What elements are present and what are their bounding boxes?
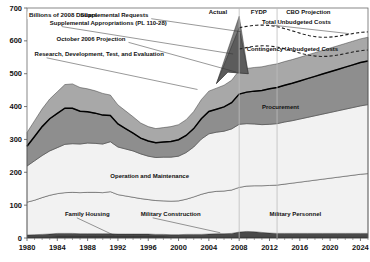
annotation-contingency-unbudgeted-costs: Contingency Unbudgeted Costs xyxy=(247,46,339,52)
y-tick-label-500: 500 xyxy=(9,69,22,78)
y-tick-label-300: 300 xyxy=(9,135,22,144)
y-tick-label-200: 200 xyxy=(9,168,22,177)
x-tick-label-2008: 2008 xyxy=(231,243,248,252)
x-tick-label-2024: 2024 xyxy=(352,243,370,252)
x-tick-label-2004: 2004 xyxy=(201,243,219,252)
period-label-cbo: CBO Projection xyxy=(286,9,331,15)
annotation-military-personnel: Military Personnel xyxy=(269,211,321,217)
x-tick-label-2012: 2012 xyxy=(261,243,278,252)
x-tick-label-1984: 1984 xyxy=(49,243,67,252)
annotation-military-construction: Military Construction xyxy=(141,211,201,217)
annotation-procurement: Procurement xyxy=(262,104,299,110)
x-tick-label-2016: 2016 xyxy=(291,243,308,252)
annotation-rdte: Research, Development, Test, and Evaluat… xyxy=(35,51,165,57)
period-label-fydp: FYDP xyxy=(251,9,267,15)
annotation-total-unbudgeted-costs: Total Unbudgeted Costs xyxy=(262,19,332,25)
chart-root: 0100200300400500600700198019841988199219… xyxy=(0,0,370,262)
annotation-october-2006-projection: October 2006 Projection xyxy=(56,36,125,42)
x-tick-label-2000: 2000 xyxy=(170,243,187,252)
y-tick-label-600: 600 xyxy=(9,36,22,45)
x-tick-label-1992: 1992 xyxy=(110,243,127,252)
y-tick-label-0: 0 xyxy=(18,234,22,243)
y-tick-label-100: 100 xyxy=(9,201,22,210)
x-tick-label-2020: 2020 xyxy=(322,243,339,252)
x-tick-label-1980: 1980 xyxy=(19,243,36,252)
y-tick-label-700: 700 xyxy=(9,4,22,13)
x-tick-label-1996: 1996 xyxy=(140,243,157,252)
y-tick-label-400: 400 xyxy=(9,102,22,111)
period-label-actual: Actual xyxy=(209,9,228,15)
x-tick-label-1988: 1988 xyxy=(79,243,96,252)
annotation-family-housing: Family Housing xyxy=(65,211,110,217)
annotation-supplemental-appropriations: Supplemental Appropriations (PL 110-28) xyxy=(50,20,167,26)
annotation-supplemental-requests: Supplemental Requests xyxy=(80,12,149,18)
annotation-operation-and-maintenance: Operation and Maintenance xyxy=(110,173,189,179)
defense-budget-area-chart: 0100200300400500600700198019841988199219… xyxy=(0,0,370,262)
